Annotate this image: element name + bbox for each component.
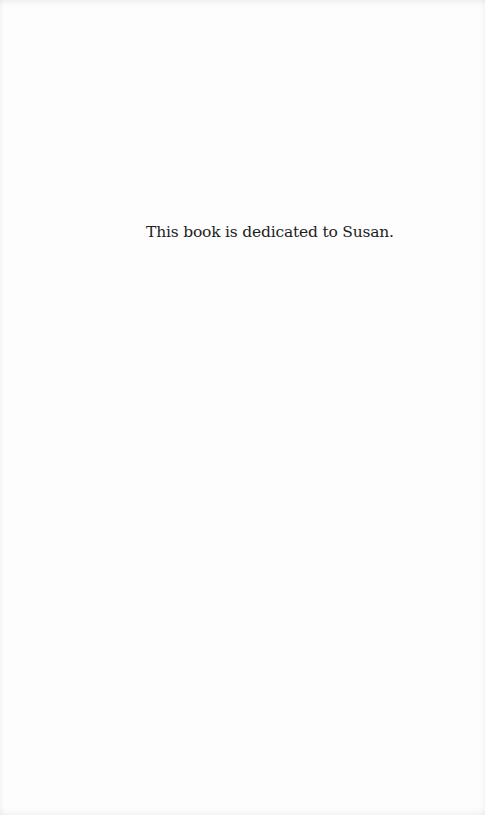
- book-page: This book is dedicated to Susan.: [0, 0, 485, 815]
- dedication-text: This book is dedicated to Susan.: [146, 222, 358, 242]
